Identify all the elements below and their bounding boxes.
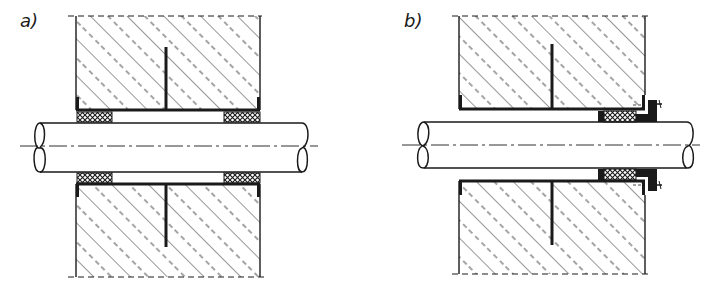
packing-upper-left-a bbox=[77, 112, 112, 122]
panel-a bbox=[20, 16, 318, 277]
lower-wall-a bbox=[68, 184, 266, 277]
pipe-b bbox=[402, 122, 700, 168]
packing-lower-left-a bbox=[77, 173, 112, 183]
lower-wall-b bbox=[452, 181, 652, 274]
pipe-a bbox=[20, 123, 318, 172]
diagram-canvas bbox=[0, 0, 727, 298]
panel-b bbox=[402, 16, 700, 274]
packing-upper-right-a bbox=[224, 112, 260, 122]
packing-lower-right-a bbox=[224, 173, 260, 183]
